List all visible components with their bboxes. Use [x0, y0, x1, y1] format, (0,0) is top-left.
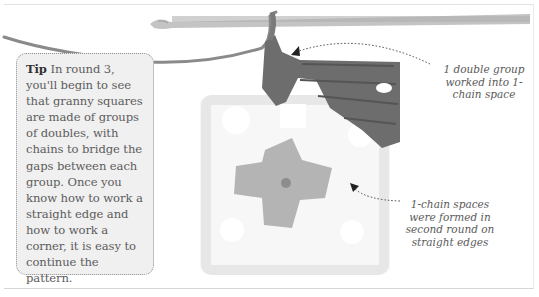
- arrowhead-icon: [291, 46, 300, 56]
- tip-box: Tip In round 3, you'll begin to see that…: [16, 53, 154, 275]
- tip-text: In round 3, you'll begin to see that gra…: [26, 62, 143, 285]
- callout-chain-spaces: 1-chain spaces were formed in second rou…: [402, 198, 498, 248]
- crochet-hook-icon: [150, 14, 530, 29]
- callout-double-group: 1 double group worked into 1-chain space: [434, 63, 534, 101]
- tip-label: Tip: [26, 62, 47, 76]
